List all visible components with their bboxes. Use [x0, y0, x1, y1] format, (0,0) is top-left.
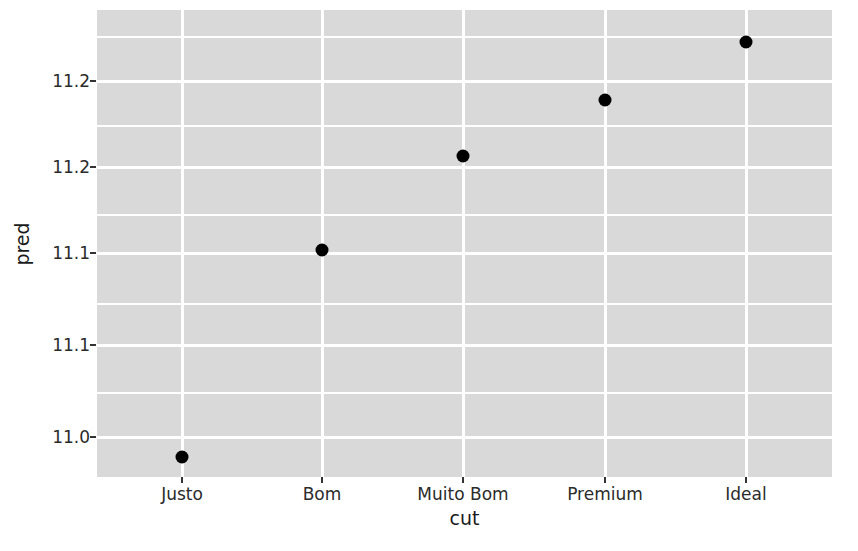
x-axis-tick-mark — [321, 477, 323, 483]
y-axis-title-text: pred — [11, 222, 33, 265]
data-point — [176, 451, 189, 464]
y-axis-tick-mark — [90, 436, 96, 438]
x-axis-title-text: cut — [450, 507, 480, 529]
gridline-vertical-major — [462, 10, 465, 477]
gridline-horizontal-major — [97, 436, 832, 439]
x-axis-tick-label: Justo — [161, 484, 203, 504]
x-axis-tick-label: Ideal — [725, 484, 766, 504]
x-axis-tick-mark — [745, 477, 747, 483]
y-axis-tick-mark — [90, 80, 96, 82]
data-point — [740, 36, 753, 49]
y-axis-tick-mark — [90, 166, 96, 168]
x-axis-tick-mark — [462, 477, 464, 483]
gridline-horizontal-major — [97, 166, 832, 169]
plot-panel — [97, 10, 832, 477]
x-axis-tick-mark — [181, 477, 183, 483]
gridline-vertical-major — [745, 10, 748, 477]
data-point — [599, 94, 612, 107]
y-axis-tick-label: 11.1 — [44, 243, 90, 263]
x-axis-tick-label: Muito Bom — [417, 484, 508, 504]
gridline-horizontal-minor — [97, 303, 832, 305]
gridline-horizontal-major — [97, 80, 832, 83]
y-axis-tick-labels: 11.211.211.111.111.0 — [44, 0, 90, 551]
y-axis-title: pred — [0, 0, 44, 487]
y-axis-tick-label: 11.2 — [44, 157, 90, 177]
x-axis-title: cut — [97, 507, 832, 529]
gridline-horizontal-minor — [97, 392, 832, 394]
x-axis-tick-mark — [604, 477, 606, 483]
x-axis-tick-label: Premium — [567, 484, 643, 504]
gridline-horizontal-major — [97, 252, 832, 255]
data-point — [316, 244, 329, 257]
gridline-horizontal-minor — [97, 125, 832, 127]
y-axis-tick-label: 11.1 — [44, 335, 90, 355]
gridline-horizontal-minor — [97, 36, 832, 38]
y-axis-tick-mark — [90, 344, 96, 346]
data-point — [457, 150, 470, 163]
gridline-horizontal-major — [97, 344, 832, 347]
y-axis-tick-label: 11.0 — [44, 427, 90, 447]
y-axis-tick-mark — [90, 252, 96, 254]
gridline-horizontal-minor — [97, 214, 832, 216]
scatter-plot-figure: pred 11.211.211.111.111.0 JustoBomMuito … — [0, 0, 858, 551]
gridline-vertical-major — [181, 10, 184, 477]
x-axis-tick-label: Bom — [303, 484, 342, 504]
y-axis-tick-label: 11.2 — [44, 71, 90, 91]
gridline-vertical-major — [604, 10, 607, 477]
